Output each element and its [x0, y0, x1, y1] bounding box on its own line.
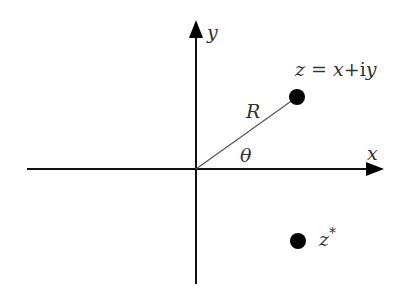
point-z-conjugate-label: z* — [318, 225, 336, 250]
x-axis-arrow-icon — [366, 162, 384, 176]
angle-label: θ — [240, 144, 252, 166]
magnitude-label: R — [245, 100, 260, 122]
y-axis-label: y — [206, 21, 218, 43]
point-z-label: z = x+iy — [294, 58, 377, 80]
x-axis-label: x — [367, 142, 378, 164]
point-z-conjugate — [290, 233, 306, 249]
x-axis — [27, 162, 384, 176]
point-z — [289, 89, 305, 105]
complex-plane-diagram: y x R θ z = x+iy z* — [0, 0, 404, 299]
y-axis — [189, 20, 203, 284]
y-axis-arrow-icon — [189, 20, 203, 38]
